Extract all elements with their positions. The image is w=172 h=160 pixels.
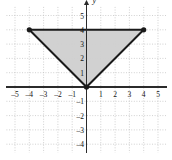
y-tick-label: –1 [76,97,85,106]
y-tick-label: 4 [80,26,84,35]
y-axis-label-text: y [92,0,97,5]
x-tick-label: –3 [39,90,48,99]
y-tick-label: 5 [80,12,84,21]
vertex-marker-dot [84,84,89,89]
x-tick-label: –2 [53,90,62,99]
y-tick-label: –3 [76,126,85,135]
x-tick-label: 4 [142,90,146,99]
coordinate-plane-chart: –5–4–3–2–11234554321–1–2–3–4 y [0,0,172,160]
vertex-marker-dot [27,27,32,32]
figure-canvas: –5–4–3–2–11234554321–1–2–3–4 y [0,0,172,160]
x-tick-label: 5 [156,90,160,99]
x-tick-label: 3 [128,90,132,99]
y-tick-label: 2 [80,54,84,63]
x-tick-label: –1 [67,90,76,99]
y-tick-label: –4 [76,140,85,149]
vertex-marker-dot [141,27,146,32]
y-axis-label: y [92,0,97,5]
x-tick-label: –5 [10,90,19,99]
x-tick-label: –4 [25,90,34,99]
y-tick-label: –2 [76,112,85,121]
x-tick-label: 1 [99,90,103,99]
y-tick-label: 3 [80,40,84,49]
x-tick-label: 2 [113,90,117,99]
y-tick-label: 1 [80,69,84,78]
